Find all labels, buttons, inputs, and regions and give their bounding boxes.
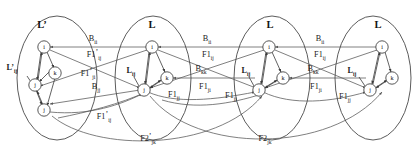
lbl-f1p-ij-bot: F1’ij (97, 110, 112, 123)
lbl-f1p-ji: F1’ji (81, 67, 96, 80)
node-g3-i[interactable]: i (263, 41, 275, 53)
g4-edge-i-k (385, 52, 391, 72)
node-g1-i[interactable]: i (38, 41, 50, 53)
group-title-4: L (374, 19, 381, 30)
g3-edge-i-k (272, 52, 281, 72)
node-label: i (43, 43, 45, 50)
lbl-b-kk-1: Bkk (195, 64, 206, 75)
lbl-f2-jk: F2jk (258, 134, 271, 145)
node-g2-j[interactable]: j (138, 84, 150, 96)
g2-edge-i-k (156, 52, 165, 72)
node-label: j (257, 86, 260, 93)
lbl-b-jj: Bjj (92, 82, 101, 93)
node-g1-j2[interactable]: j (38, 104, 50, 116)
g4-edge-j-i (373, 52, 380, 84)
lbl-f1-ji-3: F1ji (310, 82, 322, 93)
node-label: j (142, 86, 145, 93)
g1-edge-j2-j (37, 91, 43, 105)
diagram-canvas: i k j j i k (0, 0, 413, 156)
group-title-2: L (148, 19, 155, 30)
node-label: i (151, 43, 153, 50)
g3-edge-j-i (262, 52, 267, 84)
lbl-f1p-ij-top: F1’ij (87, 48, 102, 61)
lbl-f1-jj-4: F1jj (339, 92, 351, 103)
node-g4-i[interactable]: i (376, 41, 388, 53)
node-g1-k[interactable]: k (49, 67, 61, 79)
g2-edge-j-k (149, 80, 161, 88)
g3-edge-j-k (264, 80, 277, 88)
lbl-f1-ij-3: F1ij (314, 50, 326, 61)
inner-lattice-label-4: Lij (348, 66, 357, 77)
g2-edge-k-j (150, 80, 162, 88)
node-g3-j[interactable]: j (253, 84, 265, 96)
edge-label-group: BiiBiiBiiF1’ijF1ijF1ijF1’jiBkkBkkBjjF1ji… (81, 34, 352, 145)
lbl-b-ii-3: Bii (316, 34, 325, 45)
lbl-f2p-jk: F2’jk (140, 132, 156, 145)
edge-f2p-jk (52, 96, 262, 141)
lbl-f1-ij-2: F1ij (202, 50, 214, 61)
lbl-b-ii-2: Bii (203, 34, 212, 45)
g3-edge-i-j (261, 52, 266, 84)
diagram-svg: i k j j i k (0, 0, 413, 156)
g1-edge-i-k (47, 52, 54, 68)
node-label: j (42, 106, 45, 113)
g1-edge-j-j2 (36, 90, 42, 105)
inner-lattice-label-1: L’ij (7, 63, 18, 74)
node-g1-j[interactable]: j (29, 79, 41, 91)
group-titles: L’ L L L (37, 19, 381, 30)
node-label: j (368, 86, 371, 93)
g4-edge-j-k (375, 80, 387, 88)
node-g3-k[interactable]: k (277, 72, 289, 84)
node-g4-j[interactable]: j (364, 84, 376, 96)
node-label: i (268, 43, 270, 50)
group-title-3: L (266, 19, 273, 30)
g2-edge-stub (134, 77, 139, 86)
node-label: j (33, 81, 36, 88)
lbl-f1-jj-2: F1jj (168, 90, 180, 101)
node-g2-k[interactable]: k (161, 72, 173, 84)
lbl-f1-ji-2: F1ji (199, 82, 211, 93)
lbl-f1-jj-3: F1jj (225, 91, 237, 102)
node-label: i (381, 43, 383, 50)
g4-edge-i-j (372, 52, 379, 84)
group-title-1: L’ (37, 19, 47, 30)
node-g4-k[interactable]: k (386, 72, 398, 84)
edge-f1-jj-2 (148, 92, 255, 100)
inner-lattice-label-2: Lij (127, 66, 136, 77)
inner-lattice-label-3: Lij (242, 66, 251, 77)
inter-group-edges (40, 47, 382, 141)
node-g2-i[interactable]: i (146, 41, 158, 53)
